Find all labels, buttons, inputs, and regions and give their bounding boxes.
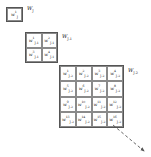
coefficient-subscript: J-2 <box>101 104 105 108</box>
subband-cell: w8J-2 <box>107 81 123 96</box>
subband-coefficient-label: w8J-2 <box>110 87 120 92</box>
subband-cell: w9J-2 <box>60 97 76 112</box>
subband-coefficient-label: w5J-2 <box>63 87 73 92</box>
subband-coefficient-label: w1J-2 <box>63 71 73 76</box>
coefficient-subscript: J-2 <box>69 89 73 93</box>
subband-coefficient-label: w1J-1 <box>29 38 39 43</box>
subband-cell: w4J-1 <box>42 48 58 63</box>
coefficient-subscript: J <box>17 15 18 19</box>
subband-cell: w1J-2 <box>60 66 76 81</box>
coefficient-subscript: J-2 <box>69 74 73 78</box>
subband-cell: w2J-2 <box>76 66 92 81</box>
subband-cell: w2J-1 <box>42 33 58 48</box>
subband-coefficient-label: w14J-2 <box>78 117 90 122</box>
subband-coefficient-label: w2J-2 <box>79 71 89 76</box>
subband-coefficient-label: w3J-1 <box>29 53 39 58</box>
coefficient-subscript: J-2 <box>84 89 88 93</box>
coefficient-subscript: J-2 <box>101 120 105 124</box>
subband-cell: w5J-2 <box>60 81 76 96</box>
coefficient-subscript: J-2 <box>117 120 121 124</box>
coefficient-subscript: J-1 <box>50 40 54 44</box>
coefficient-subscript: J-2 <box>84 74 88 78</box>
level-label-j-minus-2: WJ-2 <box>128 68 138 73</box>
subband-coefficient-label: w4J-2 <box>110 71 120 76</box>
subband-cell: w3J-1 <box>26 48 42 63</box>
subband-grid-level-j-minus-2: w1J-2w2J-2w3J-2w4J-2w5J-2w6J-2w7J-2w8J-2… <box>59 65 124 128</box>
subband-coefficient-label: w10J-2 <box>78 102 90 107</box>
subband-cell: w7J-2 <box>92 81 108 96</box>
subband-cell: w10J-2 <box>76 97 92 112</box>
subband-coefficient-label: w6J-2 <box>79 87 89 92</box>
subband-coefficient-label: w7J-2 <box>94 87 104 92</box>
zoom-arrow-icon <box>112 124 150 156</box>
subband-cell: w3J-2 <box>92 66 108 81</box>
subband-coefficient-label: w1J <box>11 12 18 17</box>
coefficient-subscript: J-2 <box>69 104 73 108</box>
subband-cell: w15J-2 <box>92 112 108 127</box>
coefficient-subscript: J-2 <box>100 89 104 93</box>
subband-coefficient-label: w13J-2 <box>62 117 74 122</box>
level-label-j-minus-1-subscript: J-1 <box>67 37 72 41</box>
coefficient-subscript: J-1 <box>50 55 54 59</box>
subband-cell: w6J-2 <box>76 81 92 96</box>
level-label-j: WJ <box>27 6 34 11</box>
subband-coefficient-label: w2J-1 <box>44 38 54 43</box>
level-label-j-minus-1: WJ-1 <box>62 34 72 39</box>
subband-grid-level-j-minus-1: w1J-1w2J-1w3J-1w4J-1 <box>25 32 58 63</box>
subband-coefficient-label: w15J-2 <box>93 117 105 122</box>
level-label-j-subscript: J <box>32 9 33 13</box>
subband-coefficient-label: w11J-2 <box>93 102 105 107</box>
coefficient-subscript: J-2 <box>116 89 120 93</box>
subband-coefficient-label: w12J-2 <box>109 102 121 107</box>
subband-cell: w13J-2 <box>60 112 76 127</box>
wavelet-hierarchy-diagram: w1J WJ w1J-1w2J-1w3J-1w4J-1 WJ-1 w1J-2w2… <box>0 0 151 157</box>
coefficient-subscript: J-2 <box>117 104 121 108</box>
level-label-j-minus-2-subscript: J-2 <box>133 71 138 75</box>
subband-coefficient-label: w3J-2 <box>94 71 104 76</box>
coefficient-subscript: J-2 <box>85 120 89 124</box>
coefficient-subscript: J-2 <box>116 74 120 78</box>
subband-grid-level-j: w1J <box>6 7 23 22</box>
subband-coefficient-label: w4J-1 <box>44 53 54 58</box>
coefficient-subscript: J-2 <box>70 120 74 124</box>
coefficient-subscript: J-1 <box>34 55 38 59</box>
coefficient-subscript: J-2 <box>100 74 104 78</box>
subband-cell: w1J <box>7 8 22 21</box>
coefficient-subscript: J-1 <box>34 40 38 44</box>
subband-cell: w14J-2 <box>76 112 92 127</box>
subband-cell: w12J-2 <box>107 97 123 112</box>
subband-coefficient-label: w16J-2 <box>109 117 121 122</box>
coefficient-subscript: J-2 <box>85 104 89 108</box>
subband-cell: w4J-2 <box>107 66 123 81</box>
subband-coefficient-label: w9J-2 <box>63 102 73 107</box>
subband-cell: w11J-2 <box>92 97 108 112</box>
subband-cell: w1J-1 <box>26 33 42 48</box>
